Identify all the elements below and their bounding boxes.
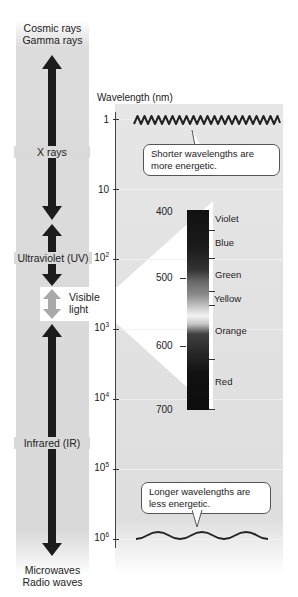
axis-tick <box>113 119 119 120</box>
callout-longer-wavelengths: Longer wavelengths are less energetic. <box>141 482 271 514</box>
axis-tick-label-10e5: 105 <box>79 461 109 473</box>
label-visible: Visible <box>69 291 100 303</box>
visible-spectrum-bar <box>187 210 209 410</box>
axis-title: Wavelength (nm) <box>97 92 173 103</box>
spectrum-label-600: 600 <box>156 340 173 351</box>
callout-pointer <box>192 509 204 529</box>
arrow-xray-band <box>42 55 62 220</box>
arrow-visible-band <box>43 289 61 319</box>
color-label-green: Green <box>215 269 241 280</box>
label-microwaves: Microwaves <box>10 564 95 576</box>
axis-tick <box>113 259 119 260</box>
long-wave-icon <box>135 528 270 546</box>
axis-tick <box>113 189 119 190</box>
callout-shorter-wavelengths: Shorter wavelengths are more energetic. <box>143 144 280 176</box>
axis-tick <box>113 329 119 330</box>
color-boundary-tick <box>209 409 215 410</box>
label-infrared: Infrared (IR) <box>14 437 90 449</box>
spectrum-label-700: 700 <box>156 404 173 415</box>
color-boundary-tick <box>209 291 215 292</box>
color-boundary-tick <box>209 359 215 360</box>
axis-tick-label-1: 1 <box>79 113 109 125</box>
axis-tick-label-10e3: 103 <box>79 321 109 333</box>
color-boundary-tick <box>209 230 215 231</box>
color-boundary-tick <box>209 258 215 259</box>
wavelength-axis <box>115 112 116 548</box>
axis-tick-label-10e2: 102 <box>79 251 109 263</box>
axis-tick-label-10e4: 104 <box>79 391 109 403</box>
color-label-red: Red <box>215 376 232 387</box>
axis-tick <box>113 469 119 470</box>
color-label-violet: Violet <box>215 213 239 224</box>
axis-tick <box>113 399 119 400</box>
label-radio-waves: Radio waves <box>10 576 95 588</box>
axis-tick-label-10e6: 106 <box>79 531 109 543</box>
spectrum-label-400: 400 <box>156 206 173 217</box>
spectrum-tick <box>180 278 186 279</box>
color-label-yellow: Yellow <box>214 293 241 304</box>
axis-tick-label-10: 10 <box>79 183 109 195</box>
spectrum-tick <box>180 346 186 347</box>
label-gamma-rays: Gamma rays <box>10 34 95 46</box>
spectrum-label-500: 500 <box>156 272 173 283</box>
color-label-orange: Orange <box>215 325 247 336</box>
short-wave-icon <box>133 114 281 126</box>
gridline <box>116 189 283 190</box>
axis-tick <box>113 539 119 540</box>
label-cosmic-rays: Cosmic rays <box>10 22 95 34</box>
label-x-rays: X rays <box>14 146 90 158</box>
color-label-blue: Blue <box>215 237 234 248</box>
gridline <box>116 469 283 470</box>
label-light: light <box>69 303 88 315</box>
color-boundary-tick <box>209 305 215 306</box>
